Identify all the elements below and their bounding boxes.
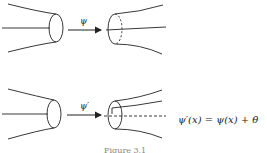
bottom-right-tube <box>104 90 166 138</box>
top-left-tube <box>2 4 63 52</box>
bottom-map-label: ψ′ <box>80 101 89 111</box>
transformation-equation: ψ′(x) = ψ(x) + θ <box>178 114 258 125</box>
diagram: ψ ψ′ <box>0 0 267 153</box>
bottom-left-tube <box>2 89 61 139</box>
top-right-tube <box>106 5 166 54</box>
figure-caption: Figure 3.1 <box>104 146 146 153</box>
top-map-label: ψ <box>80 16 88 26</box>
